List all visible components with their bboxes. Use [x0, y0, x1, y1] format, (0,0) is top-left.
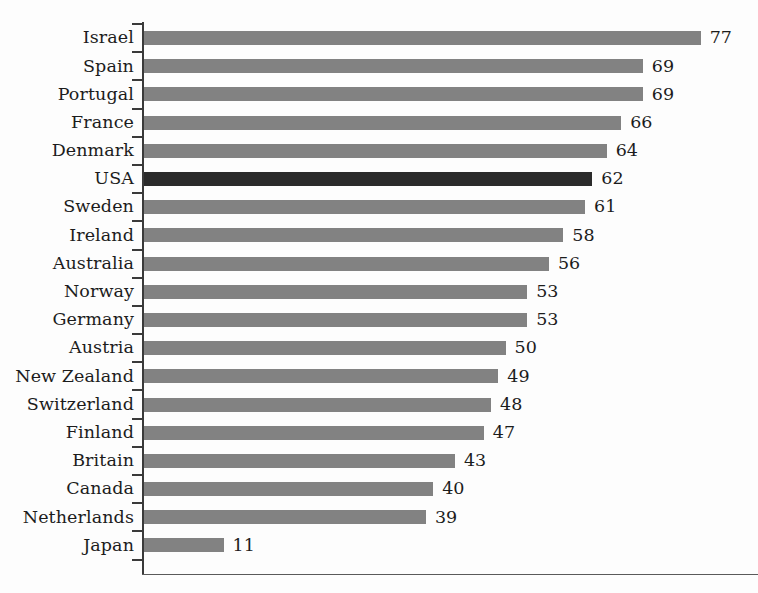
bar-value-label: 40: [442, 480, 464, 498]
bar-row: Norway53: [0, 278, 758, 306]
bar-row: Sweden61: [0, 193, 758, 221]
bar-container: 66: [144, 116, 652, 130]
category-label: Britain: [0, 452, 134, 470]
category-label: New Zealand: [0, 368, 134, 386]
bar-container: 69: [144, 59, 674, 73]
category-label: Sweden: [0, 198, 134, 216]
bar-row: France66: [0, 109, 758, 137]
bar: [144, 313, 527, 327]
bar-container: 43: [144, 454, 486, 468]
bar-row: Japan11: [0, 531, 758, 559]
category-label: Netherlands: [0, 509, 134, 527]
bar-value-label: 66: [630, 114, 652, 132]
bar-container: 40: [144, 482, 464, 496]
bar: [144, 87, 643, 101]
bar-chart: Israel77Spain69Portugal69France66Denmark…: [0, 0, 758, 593]
category-label: Germany: [0, 311, 134, 329]
bar: [144, 200, 585, 214]
bar-value-label: 53: [536, 311, 558, 329]
bar-value-label: 61: [594, 198, 616, 216]
bar-value-label: 62: [601, 170, 623, 188]
bar: [144, 538, 224, 552]
value-axis-baseline: [142, 574, 758, 575]
bar-container: 64: [144, 144, 638, 158]
bar-container: 48: [144, 398, 522, 412]
category-label: Ireland: [0, 227, 134, 245]
bar-row: Ireland58: [0, 221, 758, 249]
bar-row: Britain43: [0, 447, 758, 475]
bar-value-label: 64: [616, 142, 638, 160]
bar-row: Finland47: [0, 419, 758, 447]
bar-container: 49: [144, 369, 530, 383]
category-label: Switzerland: [0, 396, 134, 414]
axis-tick: [132, 361, 143, 363]
axis-tick: [132, 559, 143, 561]
axis-tick: [132, 305, 143, 307]
bar-container: 61: [144, 200, 616, 214]
bar-value-label: 43: [464, 452, 486, 470]
bar: [144, 228, 563, 242]
axis-tick: [132, 249, 143, 251]
category-label: Portugal: [0, 86, 134, 104]
bar-value-label: 56: [558, 255, 580, 273]
bar-container: 39: [144, 510, 457, 524]
category-label: Norway: [0, 283, 134, 301]
bar-container: 47: [144, 426, 515, 440]
bar-row: Australia56: [0, 250, 758, 278]
bar-value-label: 50: [515, 339, 537, 357]
axis-tick: [132, 333, 143, 335]
category-label: Australia: [0, 255, 134, 273]
bar-row: Portugal69: [0, 80, 758, 108]
bar: [144, 257, 549, 271]
bar-container: 11: [144, 538, 255, 552]
bar-value-label: 53: [536, 283, 558, 301]
axis-tick: [132, 530, 143, 532]
bar-value-label: 47: [493, 424, 515, 442]
axis-tick: [132, 389, 143, 391]
bar-value-label: 39: [435, 509, 457, 527]
category-label: Japan: [0, 537, 134, 555]
bar: [144, 116, 621, 130]
axis-tick: [132, 446, 143, 448]
bar-row: Switzerland48: [0, 390, 758, 418]
bar-value-label: 49: [507, 368, 529, 386]
bar-highlighted: [144, 172, 592, 186]
bar-row: Israel77: [0, 24, 758, 52]
bar-rows: Israel77Spain69Portugal69France66Denmark…: [0, 24, 758, 560]
category-label: Canada: [0, 480, 134, 498]
plot-area: Israel77Spain69Portugal69France66Denmark…: [0, 0, 758, 593]
axis-tick: [132, 277, 143, 279]
category-label: Spain: [0, 58, 134, 76]
bar-container: 77: [144, 31, 732, 45]
bar-value-label: 11: [233, 537, 255, 555]
category-label: Israel: [0, 29, 134, 47]
bar: [144, 31, 701, 45]
axis-tick: [132, 164, 143, 166]
axis-tick: [132, 192, 143, 194]
bar-row: Denmark64: [0, 137, 758, 165]
axis-tick: [132, 474, 143, 476]
axis-tick: [132, 51, 143, 53]
bar: [144, 59, 643, 73]
bar-container: 69: [144, 87, 674, 101]
bar: [144, 144, 607, 158]
bar-value-label: 69: [652, 86, 674, 104]
category-label: USA: [0, 170, 134, 188]
bar-value-label: 48: [500, 396, 522, 414]
category-label: Finland: [0, 424, 134, 442]
bar-container: 58: [144, 228, 595, 242]
category-label: France: [0, 114, 134, 132]
bar-row: USA62: [0, 165, 758, 193]
category-label: Austria: [0, 339, 134, 357]
bar-row: Austria50: [0, 334, 758, 362]
bar-container: 56: [144, 257, 580, 271]
bar-row: Germany53: [0, 306, 758, 334]
bar-value-label: 77: [710, 29, 732, 47]
bar: [144, 426, 484, 440]
axis-tick: [132, 418, 143, 420]
bar: [144, 341, 506, 355]
bar: [144, 369, 498, 383]
axis-tick: [132, 136, 143, 138]
bar-container: 53: [144, 285, 558, 299]
bar-value-label: 58: [572, 227, 594, 245]
